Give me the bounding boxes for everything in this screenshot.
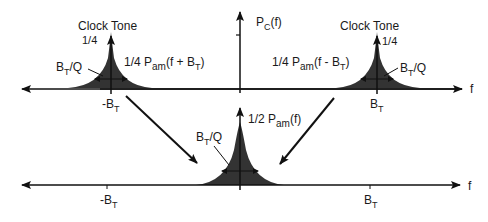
baseband-psd-label: 1/2 Pam(f) [248, 112, 301, 129]
left-frequency-label: -BT [102, 97, 120, 114]
right-clock-tone-value: 1/4 [382, 35, 397, 47]
power-axis-label: PC(f) [256, 15, 282, 32]
right-frequency-label: BT [370, 97, 384, 114]
right-bandwidth-label: BT/Q [400, 61, 426, 78]
left-clock-tone-value: 1/4 [82, 34, 97, 46]
left-bandwidth-label: BT/Q [56, 60, 82, 77]
top-frequency-axis-label: f [470, 82, 474, 96]
baseband-bandwidth-label: BT/Q [196, 130, 222, 147]
bottom-panel: BT/Q 1/2 Pam(f) -BT BT f [22, 108, 472, 210]
left-psd-label: 1/4 Pam(f + BT) [124, 55, 204, 72]
spectrum-diagram: Clock Tone 1/4 BT/Q 1/4 Pam(f + BT) -BT … [0, 0, 488, 222]
right-psd-label: 1/4 Pam(f - BT) [272, 55, 349, 72]
right-clock-tone-label: Clock Tone [340, 19, 399, 33]
bottom-left-tick-label: -BT [100, 193, 118, 210]
diagram-canvas: Clock Tone 1/4 BT/Q 1/4 Pam(f + BT) -BT … [0, 0, 488, 222]
top-panel: Clock Tone 1/4 BT/Q 1/4 Pam(f + BT) -BT … [22, 12, 474, 114]
bottom-frequency-axis-label: f [468, 179, 472, 193]
bottom-right-tick-label: BT [364, 193, 378, 210]
left-clock-tone-label: Clock Tone [78, 19, 137, 33]
left-translation-arrow [126, 96, 197, 163]
